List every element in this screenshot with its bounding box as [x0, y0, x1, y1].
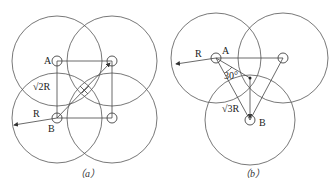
label-radius: R	[33, 108, 40, 119]
label-b: B	[259, 117, 266, 128]
diagram-a: A B R √2R （a）	[12, 16, 157, 179]
label-b: B	[48, 123, 55, 134]
label-a: A	[222, 45, 230, 56]
label-a: A	[44, 55, 52, 66]
label-angle: 30°	[224, 70, 238, 81]
diagram-b: A B R √3R 30° （b）	[171, 13, 328, 179]
caption-b: （b）	[240, 168, 265, 179]
label-diagonal: √2R	[33, 81, 50, 92]
figure: A B R √2R （a） A B R √3R 30° （b）	[0, 0, 334, 191]
label-distance: √3R	[222, 103, 239, 114]
label-radius: R	[195, 48, 202, 59]
center-point	[249, 77, 252, 80]
caption-a: （a）	[75, 168, 100, 179]
diagonal-arrow	[57, 63, 110, 118]
